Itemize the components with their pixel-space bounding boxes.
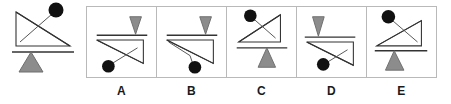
fulcrum-shape <box>200 17 212 34</box>
option-cell-c[interactable] <box>226 6 297 78</box>
reference-figure-graphic <box>0 0 84 104</box>
fulcrum-shape <box>385 51 403 70</box>
ball-shape <box>382 10 396 24</box>
option-a-graphic <box>87 7 156 77</box>
visual-reasoning-puzzle: A B C D E <box>0 0 451 104</box>
hypotenuse-line <box>307 42 354 65</box>
fulcrum-shape <box>130 17 142 34</box>
option-label-c: C <box>226 80 297 102</box>
fulcrum-shape <box>313 17 325 36</box>
fulcrum-shape <box>258 48 275 67</box>
option-cell-e[interactable] <box>366 6 437 78</box>
hypotenuse-line <box>16 12 70 46</box>
option-labels-row: A B C D E <box>86 80 449 102</box>
option-label-e: E <box>366 80 437 102</box>
option-e-graphic <box>367 7 436 77</box>
option-cell-b[interactable] <box>156 6 227 78</box>
option-label-d: D <box>296 80 367 102</box>
ball-shape <box>244 9 257 22</box>
option-d-graphic <box>297 7 366 77</box>
ball-shape <box>102 60 115 73</box>
ball-shape <box>49 3 64 18</box>
hypotenuse-line <box>377 21 422 46</box>
option-cell-d[interactable] <box>296 6 367 78</box>
hypotenuse-line <box>167 40 214 63</box>
tether-line <box>20 14 52 42</box>
option-cell-a[interactable] <box>86 6 157 78</box>
option-b-graphic <box>157 7 226 77</box>
option-label-a: A <box>86 80 157 102</box>
ball-shape <box>317 58 330 71</box>
tether-line <box>390 19 417 42</box>
option-c-graphic <box>227 7 296 77</box>
ball-shape <box>189 61 202 74</box>
answer-options-strip <box>86 6 449 78</box>
option-label-b: B <box>156 80 227 102</box>
hypotenuse-line <box>97 40 144 63</box>
reference-figure-pane <box>0 0 84 104</box>
fulcrum-shape <box>19 52 43 72</box>
